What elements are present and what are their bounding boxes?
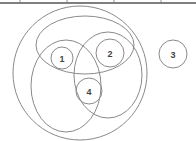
set-circle-2: 2 [96,39,124,67]
outer-circle [13,6,147,140]
circle-label: 2 [107,49,112,59]
circle-label: 4 [86,87,91,97]
set-circle-1: 1 [51,47,73,69]
venn-diagram: 1234 [0,0,196,141]
numbered-circle-group: 1234 [51,39,187,104]
set-circle-4: 4 [76,78,102,104]
circle-label: 3 [170,50,175,60]
set-circle-3: 3 [159,40,187,68]
ellipse-group [31,16,142,132]
right-ellipse [74,32,142,118]
circle-label: 1 [59,54,64,64]
